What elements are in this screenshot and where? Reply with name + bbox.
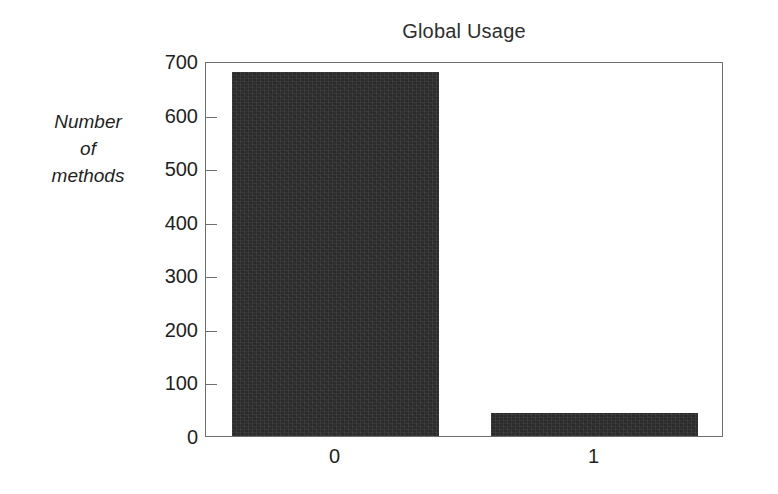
y-axis-tick-mark bbox=[206, 170, 217, 171]
y-axis-tick-mark bbox=[206, 224, 217, 225]
y-axis-tick-label: 700 bbox=[128, 51, 198, 74]
y-axis-tick-mark bbox=[206, 384, 217, 385]
y-axis-tick-mark bbox=[206, 277, 217, 278]
plot-area bbox=[205, 62, 723, 437]
x-axis-tick-label: 0 bbox=[329, 445, 340, 468]
y-axis-tick-label: 200 bbox=[128, 318, 198, 341]
y-axis-tick-labels: 0100200300400500600700 bbox=[122, 62, 198, 437]
y-axis-tick-label: 300 bbox=[128, 265, 198, 288]
y-axis-tick-mark bbox=[206, 117, 217, 118]
chart-figure: Global Usage Number of methods 010020030… bbox=[0, 0, 778, 494]
bar bbox=[232, 72, 439, 436]
y-axis-tick-label: 500 bbox=[128, 158, 198, 181]
y-axis-tick-label: 0 bbox=[128, 426, 198, 449]
x-axis-tick-label: 1 bbox=[588, 445, 599, 468]
bar bbox=[491, 413, 698, 436]
y-axis-tick-label: 600 bbox=[128, 104, 198, 127]
x-axis-tick-labels: 01 bbox=[205, 445, 723, 475]
y-axis-tick-label: 400 bbox=[128, 211, 198, 234]
chart-title: Global Usage bbox=[205, 20, 723, 43]
y-axis-tick-label: 100 bbox=[128, 372, 198, 395]
y-axis-tick-mark bbox=[206, 331, 217, 332]
